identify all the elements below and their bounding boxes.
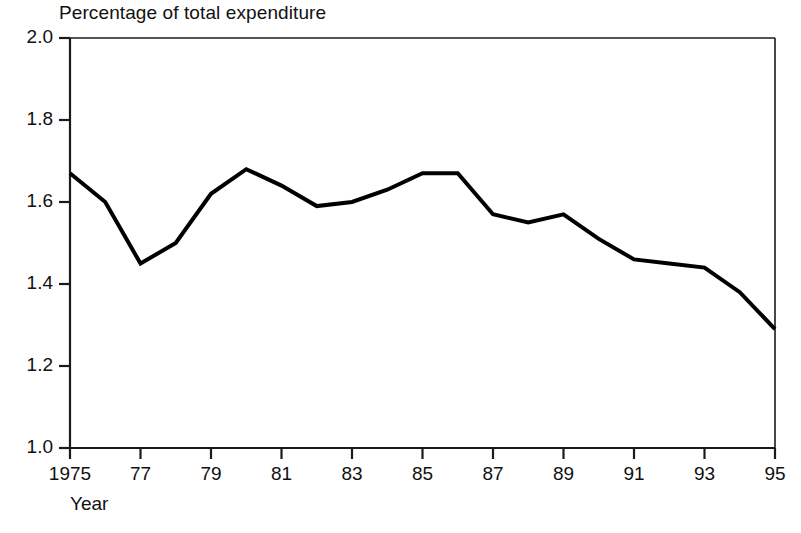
x-tick-label: 93: [670, 464, 740, 484]
x-tick-label: 85: [388, 464, 458, 484]
x-tick-label: 1975: [35, 464, 105, 484]
x-tick-label: 77: [106, 464, 176, 484]
y-tick-label: 1.2: [1, 355, 53, 375]
x-tick-label: 83: [317, 464, 387, 484]
y-tick-label: 1.8: [1, 109, 53, 129]
plot-area: [0, 0, 801, 533]
y-tick-label: 2.0: [1, 27, 53, 47]
y-tick-label: 1.6: [1, 191, 53, 211]
y-tick-label: 1.0: [1, 437, 53, 457]
x-tick-label: 91: [599, 464, 669, 484]
data-series-line: [70, 169, 775, 329]
x-tick-label: 81: [247, 464, 317, 484]
y-tick-label: 1.4: [1, 273, 53, 293]
x-tick-label: 87: [458, 464, 528, 484]
x-tick-label: 89: [529, 464, 599, 484]
x-tick-label: 79: [176, 464, 246, 484]
x-tick-label: 95: [740, 464, 801, 484]
chart-container: Percentage of total expenditure Year 2.0…: [0, 0, 801, 533]
